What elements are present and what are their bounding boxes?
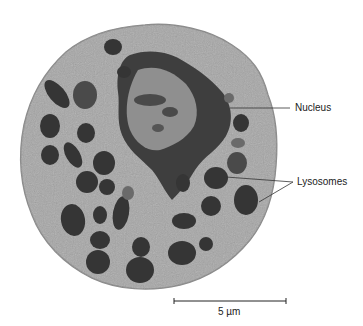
scale-bar-label: 5 µm xyxy=(218,306,240,317)
nucleus-label: Nucleus xyxy=(295,102,331,113)
cell-micrograph xyxy=(0,0,363,326)
micrograph-figure: Nucleus Lysosomes 5 µm xyxy=(0,0,363,326)
scale-bar xyxy=(174,298,286,304)
cell xyxy=(0,0,363,326)
lysosomes-label: Lysosomes xyxy=(297,176,347,187)
